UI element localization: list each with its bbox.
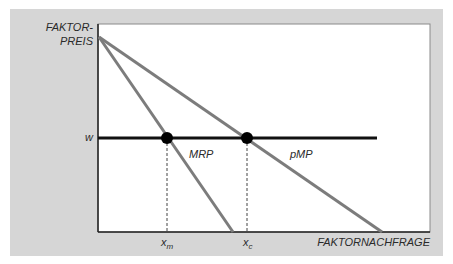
wage-label: w	[85, 131, 93, 143]
xm-label: xm	[161, 236, 173, 253]
pmp-intersection-dot	[241, 132, 253, 144]
pmp-label: pMP	[290, 148, 313, 160]
y-axis-label-line1: FAKTOR-	[46, 21, 93, 33]
mrp-label: MRP	[189, 148, 213, 160]
xc-label: xc	[243, 236, 253, 253]
mrp-intersection-dot	[161, 132, 173, 144]
plot-area	[98, 24, 430, 232]
x-axis-label: FAKTORNACHFRAGE	[317, 236, 430, 248]
y-axis-label-line2: PREIS	[60, 35, 93, 47]
xc-label-subscript: c	[249, 242, 253, 251]
xm-label-subscript: m	[167, 242, 174, 251]
